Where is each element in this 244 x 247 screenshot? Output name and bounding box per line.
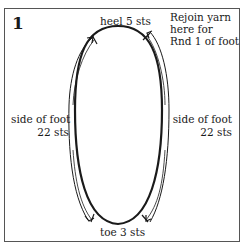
- heel-label: heel 5 sts: [100, 15, 151, 27]
- arrowhead-icons: [85, 31, 152, 222]
- right-side-label-line1: side of foot: [172, 113, 232, 125]
- right-side-label-line2: 22 sts: [172, 126, 232, 138]
- rejoin-label-line1: Rejoin yarn: [170, 11, 231, 23]
- rejoin-label-line2: here for: [170, 23, 213, 35]
- left-side-label-line2: 22 sts: [11, 126, 69, 138]
- sole-outline: [75, 26, 162, 224]
- toe-label: toe 3 sts: [100, 226, 145, 238]
- left-side-label-line1: side of foot: [11, 113, 69, 125]
- rejoin-label-line3: Rnd 1 of foot: [170, 35, 239, 47]
- right-arrow-path: [150, 32, 169, 222]
